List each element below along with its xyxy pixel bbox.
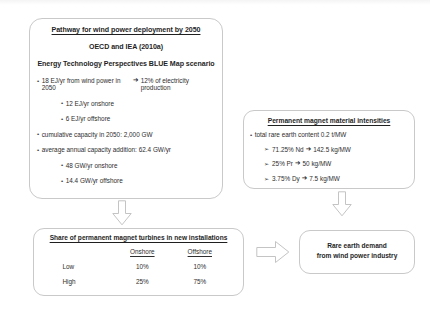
bullet-dot-icon: • [61, 177, 63, 184]
pathway-box-scenario: Energy Technology Perspectives BLUE Map … [30, 60, 222, 68]
bullet-text: cumulative capacity in 2050: 2,000 GW [42, 131, 153, 138]
permanent-magnet-box-title: Permanent magnet material intensities [244, 117, 414, 124]
bullet-item: ➢ 3.75% Dy ➔ 7.5 kg/MW [250, 175, 408, 182]
flow-diagram: Pathway for wind power deployment by 205… [0, 0, 430, 309]
bullet-dot-icon: • [250, 131, 252, 138]
right-arrow-icon: ➔ [131, 77, 141, 84]
arrowhead-bullet-icon: ➢ [264, 146, 269, 153]
arrowhead-bullet-icon: ➢ [264, 175, 269, 182]
bullet-item: • 6 EJ/yr offshore [37, 115, 216, 122]
table-header-row: Onshore Offshore [49, 247, 229, 262]
table-row: High 25% 75% [49, 277, 229, 292]
bullet-text-consequence: 12% of electricity production [141, 77, 216, 91]
rare-earth-demand-box: Rare earth demand from wind power indust… [299, 230, 415, 274]
rare-earth-demand-label: Rare earth demand from wind power indust… [300, 231, 414, 261]
bullet-text-value: 142.5 kg/MW [313, 146, 351, 153]
bullet-item: • 12 EJ/yr onshore [37, 100, 216, 107]
scan-artifact-band [0, 0, 430, 5]
cell-low-offshore: 10% [171, 262, 228, 277]
bullet-text: 12 EJ/yr onshore [66, 100, 114, 107]
arrow-down-from-main-box [111, 200, 133, 226]
row-label-high: High [49, 277, 114, 292]
bullet-text: 48 GW/yr onshore [66, 162, 118, 169]
bullet-item: • cumulative capacity in 2050: 2,000 GW [37, 131, 216, 138]
bullet-text: total rare earth content 0.2 t/MW [255, 131, 347, 138]
pathway-bullet-list: • 18 EJ/yr from wind power in 2050 ➔ 12%… [30, 77, 222, 184]
table-header-offshore: Offshore [171, 247, 228, 262]
arrowhead-bullet-icon: ➢ [264, 160, 269, 167]
arrow-right-from-share-box [256, 240, 290, 264]
arrow-down-from-pm-box [331, 191, 353, 217]
share-table: Onshore Offshore Low 10% 10% High 25% 75… [49, 247, 229, 291]
bullet-text: average annual capacity addition: 62.4 G… [42, 146, 171, 153]
bullet-item: • 18 EJ/yr from wind power in 2050 ➔ 12%… [37, 77, 216, 91]
permanent-magnet-intensities-box: Permanent magnet material intensities • … [243, 110, 415, 189]
bullet-text-value: 7.5 kg/MW [309, 175, 340, 182]
permanent-magnet-bullet-list: • total rare earth content 0.2 t/MW ➢ 71… [244, 131, 414, 182]
demand-line-2: from wind power industry [300, 251, 414, 261]
bullet-dot-icon: • [37, 77, 39, 84]
share-of-pm-turbines-box: Share of permanent magnet turbines in ne… [33, 228, 244, 296]
cell-low-onshore: 10% [114, 262, 172, 277]
share-box-title: Share of permanent magnet turbines in ne… [34, 234, 243, 241]
bullet-dot-icon: • [61, 100, 63, 107]
table-header-onshore: Onshore [114, 247, 172, 262]
cell-high-onshore: 25% [114, 277, 172, 292]
bullet-dot-icon: • [37, 146, 39, 153]
bullet-text: 18 EJ/yr from wind power in 2050 [42, 77, 131, 91]
bullet-item: • average annual capacity addition: 62.4… [37, 146, 216, 153]
pathway-box: Pathway for wind power deployment by 205… [29, 18, 223, 199]
cell-high-offshore: 75% [171, 277, 228, 292]
bullet-item: • total rare earth content 0.2 t/MW [250, 131, 408, 138]
bullet-text: 14.4 GW/yr offshore [66, 177, 123, 184]
bullet-item: • 48 GW/yr onshore [37, 162, 216, 169]
bullet-item: ➢ 25% Pr ➔ 50 kg/MW [250, 160, 408, 167]
bullet-dot-icon: • [61, 115, 63, 122]
pathway-box-title: Pathway for wind power deployment by 205… [30, 26, 222, 34]
table-header-blank [49, 247, 114, 262]
right-arrow-icon: ➔ [293, 160, 303, 167]
bullet-text: 25% Pr [272, 160, 293, 167]
demand-line-1: Rare earth demand [300, 241, 414, 251]
bullet-item: • 14.4 GW/yr offshore [37, 177, 216, 184]
bullet-dot-icon: • [37, 131, 39, 138]
right-arrow-icon: ➔ [304, 146, 314, 153]
table-row: Low 10% 10% [49, 262, 229, 277]
pathway-box-source: OECD and IEA (2010a) [30, 43, 222, 51]
bullet-dot-icon: • [61, 162, 63, 169]
row-label-low: Low [49, 262, 114, 277]
bullet-text: 3.75% Dy [272, 175, 300, 182]
bullet-text: 71.25% Nd [272, 146, 304, 153]
bullet-text: 6 EJ/yr offshore [66, 115, 111, 122]
right-arrow-icon: ➔ [300, 175, 310, 182]
bullet-text-value: 50 kg/MW [303, 160, 332, 167]
bullet-item: ➢ 71.25% Nd ➔ 142.5 kg/MW [250, 146, 408, 153]
